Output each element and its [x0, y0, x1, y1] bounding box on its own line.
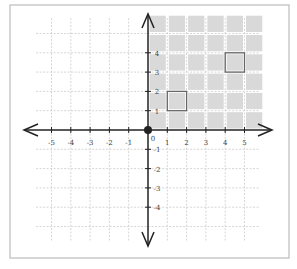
- shaded-cell: [207, 74, 223, 90]
- shaded-cell: [246, 74, 262, 90]
- y-tick-label: 1: [155, 108, 159, 116]
- shaded-cell: [227, 54, 243, 70]
- shaded-cell: [188, 112, 204, 128]
- shaded-cell: [227, 112, 243, 128]
- x-tick-label: -5: [48, 139, 55, 147]
- y-tick-label: 3: [155, 69, 159, 77]
- shaded-cell: [188, 35, 204, 51]
- shaded-cell: [207, 35, 223, 51]
- shaded-cell: [169, 93, 185, 109]
- y-tick-label: 2: [155, 88, 159, 96]
- shaded-cell: [246, 112, 262, 128]
- x-tick-label: -4: [67, 139, 74, 147]
- x-tick-label: -1: [125, 139, 132, 147]
- shaded-cell: [246, 16, 262, 32]
- shaded-cell: [207, 112, 223, 128]
- y-tick-label: -3: [154, 185, 161, 193]
- coordinate-plane: -5-4-3-2-1123454321-1-2-3-40: [0, 0, 297, 269]
- shaded-cell: [227, 35, 243, 51]
- shaded-cell: [188, 74, 204, 90]
- y-tick-label: 4: [155, 50, 160, 58]
- shaded-cell: [227, 16, 243, 32]
- x-tick-label: -3: [87, 139, 94, 147]
- shaded-cell: [169, 54, 185, 70]
- shaded-cell: [188, 54, 204, 70]
- shaded-cell: [169, 74, 185, 90]
- shaded-cell: [246, 54, 262, 70]
- y-tick-label: -4: [154, 204, 161, 212]
- shaded-cell: [246, 35, 262, 51]
- x-tick-label: 1: [165, 139, 169, 147]
- x-tick-label: 2: [184, 139, 188, 147]
- shaded-cell: [188, 93, 204, 109]
- shaded-cell: [169, 35, 185, 51]
- shaded-cell: [207, 93, 223, 109]
- shaded-cell: [169, 16, 185, 32]
- y-tick-label: -2: [154, 166, 161, 174]
- shaded-cell: [207, 16, 223, 32]
- x-tick-label: -2: [106, 139, 113, 147]
- shaded-cell: [207, 54, 223, 70]
- shaded-cell: [227, 74, 243, 90]
- origin-label: 0: [151, 135, 155, 143]
- x-tick-label: 4: [223, 139, 228, 147]
- x-tick-label: 5: [242, 139, 246, 147]
- x-tick-label: 3: [204, 139, 208, 147]
- shaded-cell: [246, 93, 262, 109]
- shaded-cell: [169, 112, 185, 128]
- y-tick-label: -1: [154, 146, 161, 154]
- shaded-cell: [227, 93, 243, 109]
- origin-point: [144, 126, 152, 134]
- shaded-cell: [188, 16, 204, 32]
